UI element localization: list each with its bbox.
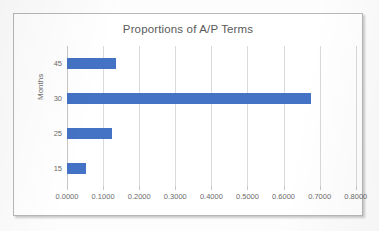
bar-row: 30 (67, 81, 363, 116)
chart-frame: Proportions of A/P Terms Months 45302515… (13, 13, 363, 216)
x-tick-0.2000 (139, 186, 140, 190)
x-tick-0.1000 (103, 186, 104, 190)
x-tick-0.7000 (320, 186, 321, 190)
x-tick-label-0.6000: 0.6000 (272, 192, 295, 201)
x-tick-0.4000 (211, 186, 212, 190)
x-tick-0.3000 (175, 186, 176, 190)
bar-45 (67, 58, 116, 69)
x-tick-label-0.5000: 0.5000 (236, 192, 259, 201)
bar-series: 45302515 (67, 46, 363, 186)
y-axis-title: Months (36, 74, 45, 100)
x-tick-0.6000 (284, 186, 285, 190)
x-tick-label-0.2000: 0.2000 (128, 192, 151, 201)
x-tick-label-0.1000: 0.1000 (92, 192, 115, 201)
bar-row: 25 (67, 116, 363, 151)
bar-15 (67, 163, 86, 174)
x-tick-label-0.4000: 0.4000 (200, 192, 223, 201)
bar-row: 15 (67, 151, 363, 186)
x-tick-0.8000 (356, 186, 357, 190)
scanned-page: Proportions of A/P Terms Months 45302515… (0, 0, 379, 231)
y-tick-label-45: 45 (54, 59, 62, 68)
x-tick-label-0.7000: 0.7000 (308, 192, 331, 201)
bar-30 (67, 93, 311, 104)
x-tick-label-0.3000: 0.3000 (164, 192, 187, 201)
y-tick-label-30: 30 (54, 94, 62, 103)
y-tick-label-15: 15 (54, 164, 62, 173)
x-axis: 0.00000.10000.20000.30000.40000.50000.60… (67, 186, 363, 212)
x-tick-0.5000 (247, 186, 248, 190)
x-tick-0.0000 (67, 186, 68, 190)
x-tick-label-0.8000: 0.8000 (344, 192, 367, 201)
plot-area: 45302515 (67, 46, 363, 186)
chart-title: Proportions of A/P Terms (14, 23, 362, 35)
bar-row: 45 (67, 46, 363, 81)
bar-25 (67, 128, 112, 139)
y-tick-label-25: 25 (54, 129, 62, 138)
x-tick-label-0.0000: 0.0000 (56, 192, 79, 201)
